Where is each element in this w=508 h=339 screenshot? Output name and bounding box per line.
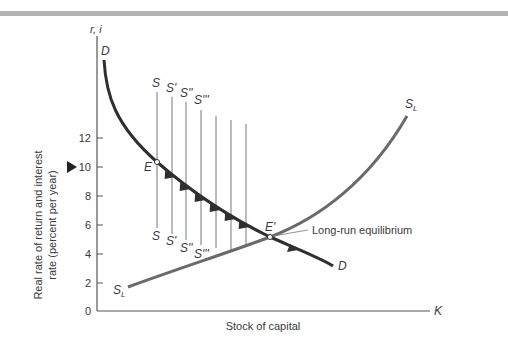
- e-prime-label: E': [265, 220, 276, 234]
- chart-canvas: r, i K 12 10 8 6 4 2 0 Real rate of retu…: [0, 0, 508, 339]
- y-ticks: 12 10 8 6 4 2 0: [79, 132, 103, 317]
- sl-label-top: SL: [405, 97, 417, 113]
- svg-text:rate (percent per year): rate (percent per year): [46, 170, 58, 279]
- d-label-bottom: D: [338, 259, 347, 273]
- tick-12: 12: [79, 132, 91, 144]
- svg-text:Real rate of return and intere: Real rate of return and interest: [32, 150, 44, 299]
- pointer-triangle-icon: [67, 161, 77, 173]
- s-double-prime-label-top: S'': [180, 86, 193, 100]
- x-axis-label: Stock of capital: [226, 320, 301, 332]
- tick-0: 0: [85, 305, 91, 317]
- x-axis-symbol: K: [434, 304, 443, 318]
- s-prime-label-top: S': [166, 81, 177, 95]
- long-run-equilibrium-label: Long-run equilibrium: [312, 224, 412, 236]
- tick-2: 2: [85, 277, 91, 289]
- y-axis-symbol: r, i: [90, 23, 102, 35]
- tick-10: 10: [79, 161, 91, 173]
- point-e-prime: [268, 235, 273, 240]
- s-label-top: S: [152, 76, 160, 90]
- tick-8: 8: [85, 190, 91, 202]
- s-label-bottom: S: [152, 229, 160, 243]
- short-run-supply-lines: [157, 92, 246, 250]
- s-triple-prime-label-top: S''': [194, 93, 210, 107]
- demand-curve: [104, 60, 333, 266]
- y-axis-label: Real rate of return and interest rate (p…: [32, 150, 58, 299]
- long-run-supply-curve: [128, 116, 407, 287]
- point-e: [155, 160, 160, 165]
- e-label: E: [144, 160, 153, 174]
- tick-4: 4: [85, 248, 91, 260]
- sl-label-bottom: SL: [113, 283, 125, 299]
- d-label-top: D: [101, 44, 110, 58]
- tick-6: 6: [85, 219, 91, 231]
- s-prime-label-bottom: S': [166, 234, 177, 248]
- s-double-prime-label-bottom: S'': [180, 241, 193, 255]
